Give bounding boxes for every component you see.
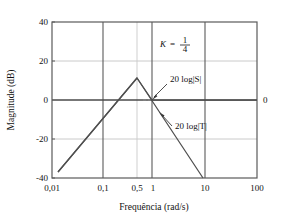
curve-sensitivity bbox=[58, 78, 257, 172]
gain-annotation-symbol: K bbox=[159, 39, 167, 49]
xtick-label-0.01: 0,01 bbox=[44, 183, 60, 193]
complementary-sensitivity-label: 20 log|T| bbox=[175, 121, 207, 131]
sensitivity-label: 20 log|S| bbox=[170, 74, 202, 84]
ytick-label-0: 0 bbox=[44, 95, 49, 105]
sensitivity-arrowhead bbox=[152, 95, 157, 100]
xtick-label-0.1: 0,1 bbox=[97, 183, 108, 193]
ytick-label-20: 20 bbox=[39, 56, 49, 66]
gain-annotation: K = 1 4 bbox=[159, 35, 190, 54]
right-axis-zero-label: 0 bbox=[263, 95, 268, 105]
chart-canvas: 40 20 0 -20 -40 0 0,01 0,1 0,5 1 10 100 … bbox=[0, 0, 281, 218]
ytick-label-minus40: -40 bbox=[36, 173, 48, 183]
xtick-label-1: 1 bbox=[151, 183, 156, 193]
xtick-label-10: 10 bbox=[201, 183, 211, 193]
gain-annotation-denominator: 4 bbox=[183, 44, 188, 54]
ytick-label-40: 40 bbox=[39, 17, 49, 27]
y-axis-title: Magnitude (dB) bbox=[6, 70, 17, 131]
xtick-label-0.5: 0,5 bbox=[131, 183, 143, 193]
xtick-label-100: 100 bbox=[250, 183, 264, 193]
bode-magnitude-figure: 40 20 0 -20 -40 0 0,01 0,1 0,5 1 10 100 … bbox=[0, 0, 281, 218]
ytick-label-minus20: -20 bbox=[36, 134, 48, 144]
x-axis-title: Frequência (rad/s) bbox=[119, 202, 188, 213]
gain-annotation-equals: = bbox=[170, 39, 175, 49]
